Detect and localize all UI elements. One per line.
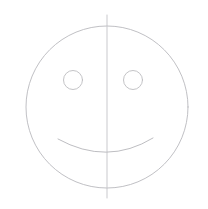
canvas-background [0, 0, 208, 209]
drawing-canvas [0, 0, 208, 209]
smiley-face-drawing [0, 0, 208, 209]
